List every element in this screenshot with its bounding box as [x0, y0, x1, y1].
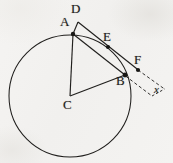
point-label-d: D [71, 2, 80, 15]
radius-c-a [70, 34, 73, 96]
point-label-a: A [60, 15, 69, 28]
x-length-label: x [154, 84, 159, 95]
x-marker-lower-rail [126, 76, 153, 96]
point-label-c: C [63, 98, 72, 111]
chord-a-b [73, 34, 125, 75]
x-marker-upper-rail [138, 70, 165, 89]
point-label-b: B [116, 74, 125, 87]
geometry-canvas [0, 0, 173, 163]
geometry-figure: A B C D E F x [0, 0, 173, 163]
vertex-dot-e [106, 45, 110, 49]
vertex-dot-f [136, 68, 140, 72]
point-label-f: F [134, 53, 141, 66]
vertex-dot-a [71, 32, 75, 36]
point-label-e: E [103, 30, 111, 43]
